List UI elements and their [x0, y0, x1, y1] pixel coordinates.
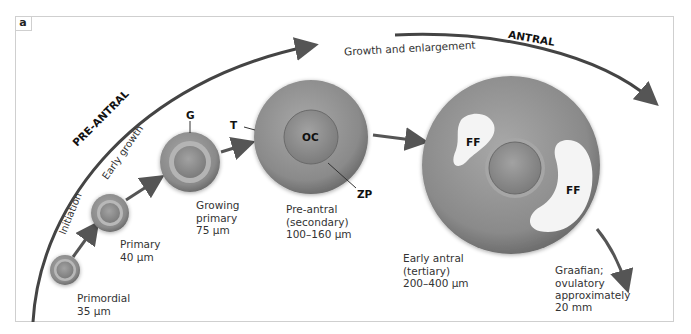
stage-primary-name: Primary	[120, 238, 161, 251]
stage-growing-primary-name: Growing primary	[196, 199, 239, 224]
follicular-fluid-label-1: FF	[466, 136, 480, 149]
stage-early-antral-name: Early antral (tertiary)	[403, 252, 464, 277]
stage-primary-size: 40 μm	[120, 251, 154, 264]
early-antral-follicle	[422, 76, 600, 254]
stage-primordial-size: 35 μm	[77, 305, 111, 318]
stage-growing-primary-size: 75 μm	[196, 224, 230, 237]
follicular-fluid-label-2: FF	[566, 184, 580, 197]
zona-pellucida-label: ZP	[357, 188, 372, 201]
primary-follicle	[91, 194, 129, 232]
stage-graafian-name: Graafian; ovulatory approximately	[555, 264, 630, 302]
granulosa-label: G	[186, 109, 195, 122]
stage-graafian-size: 20 mm	[555, 301, 592, 314]
stage-pre-antral-name: Pre-antral (secondary)	[286, 203, 349, 228]
primordial-follicle	[50, 255, 80, 285]
oocyte-label: OC	[302, 131, 319, 144]
growing-primary-follicle	[160, 132, 220, 192]
stage-pre-antral-size: 100–160 μm	[286, 228, 352, 241]
theca-label: T	[230, 119, 237, 132]
stage-primordial-name: Primordial	[77, 292, 130, 305]
stage-early-antral-size: 200–400 μm	[403, 277, 469, 290]
